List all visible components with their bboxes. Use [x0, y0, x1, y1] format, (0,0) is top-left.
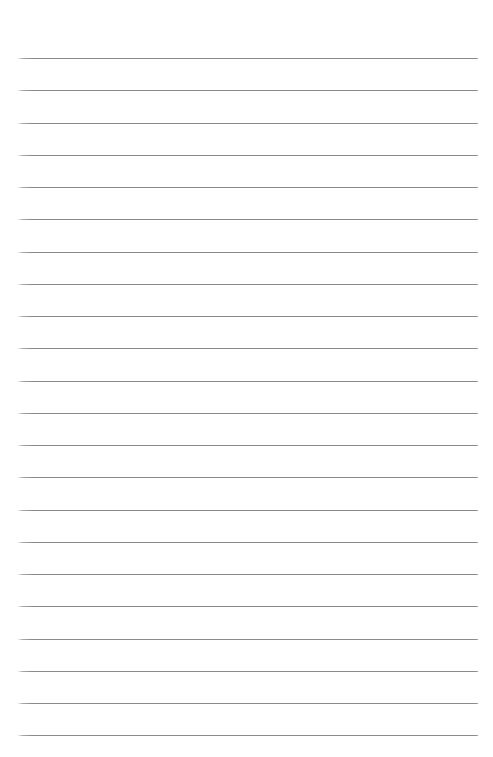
- writing-row[interactable]: [18, 510, 478, 542]
- writing-row[interactable]: [18, 58, 478, 90]
- writing-row[interactable]: [18, 284, 478, 316]
- writing-row[interactable]: [18, 381, 478, 413]
- writing-row[interactable]: [18, 219, 478, 251]
- writing-row[interactable]: [18, 574, 478, 606]
- writing-row[interactable]: [18, 542, 478, 574]
- writing-row[interactable]: [18, 348, 478, 380]
- writing-row[interactable]: [18, 445, 478, 477]
- writing-row[interactable]: [18, 316, 478, 348]
- writing-row[interactable]: [18, 671, 478, 703]
- writing-row[interactable]: [18, 606, 478, 638]
- writing-row[interactable]: [18, 413, 478, 445]
- writing-row[interactable]: [18, 123, 478, 155]
- writing-row[interactable]: [18, 703, 478, 735]
- writing-row[interactable]: [18, 252, 478, 284]
- rule-line: [18, 735, 478, 736]
- writing-row[interactable]: [18, 477, 478, 509]
- writing-row[interactable]: [18, 155, 478, 187]
- writing-row[interactable]: [18, 90, 478, 122]
- lined-paper-page: [0, 0, 493, 757]
- writing-row[interactable]: [18, 26, 478, 58]
- writing-row[interactable]: [18, 639, 478, 671]
- writing-row[interactable]: [18, 187, 478, 219]
